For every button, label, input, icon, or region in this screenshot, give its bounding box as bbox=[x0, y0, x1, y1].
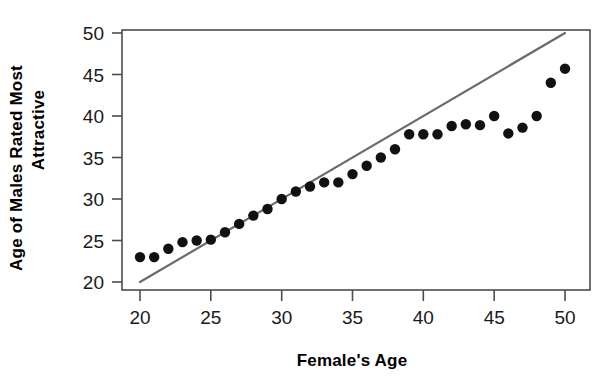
data-point bbox=[432, 129, 442, 139]
x-tick-label-20: 20 bbox=[129, 307, 150, 328]
data-point bbox=[135, 252, 145, 262]
scatter-plot: 50 45 40 35 30 25 20 20 25 30 35 40 45 5… bbox=[0, 0, 609, 384]
data-point bbox=[404, 129, 414, 139]
y-tick-label-25: 25 bbox=[83, 231, 104, 252]
data-point bbox=[347, 169, 357, 179]
data-point bbox=[163, 244, 173, 254]
y-axis-title-line1: Age of Males Rated Most bbox=[7, 65, 26, 271]
chart-figure: 50 45 40 35 30 25 20 20 25 30 35 40 45 5… bbox=[0, 0, 609, 384]
data-point bbox=[517, 122, 527, 132]
data-point bbox=[220, 227, 230, 237]
x-axis-title: Female's Age bbox=[297, 351, 408, 370]
data-point bbox=[461, 119, 471, 129]
x-tick-label-45: 45 bbox=[484, 307, 505, 328]
x-tick-label-25: 25 bbox=[200, 307, 221, 328]
y-tick-label-45: 45 bbox=[83, 65, 104, 86]
data-point bbox=[446, 121, 456, 131]
data-point bbox=[489, 111, 499, 121]
data-point bbox=[390, 144, 400, 154]
reference-identity-line bbox=[140, 33, 565, 282]
data-point bbox=[191, 235, 201, 245]
y-tick-label-30: 30 bbox=[83, 189, 104, 210]
x-tick-label-50: 50 bbox=[554, 307, 575, 328]
data-point bbox=[276, 194, 286, 204]
data-point bbox=[234, 219, 244, 229]
data-point bbox=[149, 252, 159, 262]
x-tick-label-30: 30 bbox=[271, 307, 292, 328]
data-point bbox=[376, 152, 386, 162]
data-point bbox=[546, 78, 556, 88]
data-point bbox=[248, 210, 258, 220]
data-point bbox=[262, 204, 272, 214]
data-point bbox=[503, 128, 513, 138]
y-axis-title-line2: Attractive bbox=[29, 90, 48, 170]
data-point bbox=[177, 237, 187, 247]
data-point bbox=[305, 181, 315, 191]
x-tick-label-35: 35 bbox=[342, 307, 363, 328]
data-point bbox=[560, 63, 570, 73]
y-axis-ticks bbox=[112, 33, 122, 282]
y-tick-label-20: 20 bbox=[83, 272, 104, 293]
data-point bbox=[475, 120, 485, 130]
data-point bbox=[418, 129, 428, 139]
data-point bbox=[361, 161, 371, 171]
data-point bbox=[333, 177, 343, 187]
y-tick-label-35: 35 bbox=[83, 148, 104, 169]
data-point bbox=[531, 111, 541, 121]
data-point bbox=[206, 234, 216, 244]
y-tick-label-50: 50 bbox=[83, 23, 104, 44]
data-point bbox=[291, 186, 301, 196]
data-point bbox=[319, 177, 329, 187]
x-tick-label-40: 40 bbox=[413, 307, 434, 328]
y-tick-label-40: 40 bbox=[83, 106, 104, 127]
data-points-group bbox=[135, 63, 570, 262]
x-axis-ticks bbox=[140, 290, 565, 301]
